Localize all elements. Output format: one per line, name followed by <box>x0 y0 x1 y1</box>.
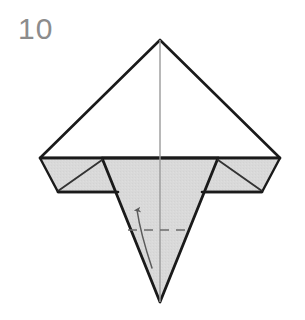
step-number: 10 <box>18 14 53 44</box>
origami-figure: 10 <box>0 0 305 320</box>
origami-diagram <box>0 0 305 320</box>
